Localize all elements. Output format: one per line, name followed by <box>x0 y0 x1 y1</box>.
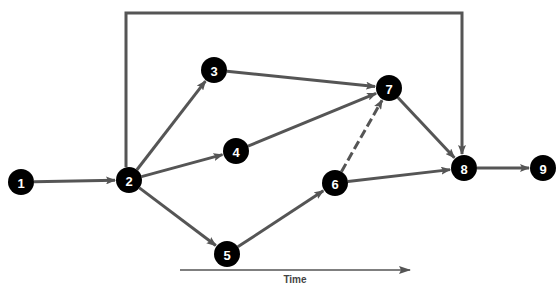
node-label: 5 <box>223 248 230 263</box>
node-8: 8 <box>451 155 477 181</box>
edge-6-to-7 <box>341 100 382 172</box>
edge-6-to-8 <box>348 170 450 182</box>
node-label: 2 <box>125 174 132 189</box>
node-1: 1 <box>8 169 34 195</box>
time-axis: Time <box>180 270 410 285</box>
edge-3-to-7 <box>227 71 375 86</box>
node-label: 9 <box>539 162 546 177</box>
network-diagram: 123456789 Time <box>0 0 559 288</box>
node-label: 8 <box>460 162 467 177</box>
nodes-layer: 123456789 <box>8 57 556 267</box>
edge-2-to-5 <box>139 188 215 246</box>
node-3: 3 <box>201 57 227 83</box>
node-label: 6 <box>331 177 338 192</box>
edge-1-to-2 <box>34 180 115 182</box>
node-6: 6 <box>322 170 348 196</box>
edges-layer <box>34 13 529 247</box>
node-5: 5 <box>214 241 240 267</box>
edge-4-to-7 <box>248 93 376 146</box>
node-label: 7 <box>385 82 392 97</box>
node-7: 7 <box>376 75 402 101</box>
edge-2-to-3 <box>137 81 205 170</box>
node-4: 4 <box>223 138 249 164</box>
edge-2-to-8 <box>126 13 462 167</box>
node-9: 9 <box>530 155 556 181</box>
node-label: 4 <box>232 145 240 160</box>
edge-7-to-8 <box>398 97 455 157</box>
node-label: 1 <box>17 176 24 191</box>
edge-2-to-4 <box>142 155 223 177</box>
edge-5-to-6 <box>238 191 323 247</box>
node-label: 3 <box>210 64 217 79</box>
time-label: Time <box>283 274 307 285</box>
node-2: 2 <box>116 167 142 193</box>
